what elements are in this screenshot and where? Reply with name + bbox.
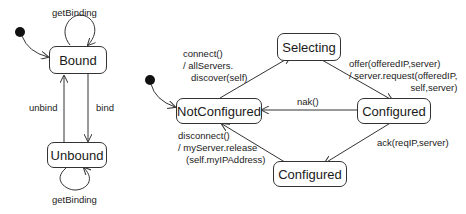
state-selecting: Selecting — [277, 33, 341, 61]
state-configured-mid: Configured — [357, 98, 431, 124]
unbound-self-loop — [60, 168, 89, 190]
state-label: NotConfigured — [177, 104, 261, 119]
initial-transition-right — [151, 84, 175, 107]
transition-label-bound-self: getBinding — [52, 7, 97, 19]
state-label: Unbound — [51, 148, 104, 163]
transition-label-offer: offer(offeredIP,server) / server.request… — [349, 58, 457, 94]
state-label: Configured — [362, 104, 426, 119]
transition-label-ack: ack(reqIP,server) — [377, 137, 449, 149]
state-label: Bound — [59, 53, 97, 68]
transition-label-unbound-self: getBinding — [52, 194, 97, 206]
bound-self-loop — [65, 15, 95, 45]
initial-state-left — [15, 27, 25, 37]
state-unbound: Unbound — [47, 142, 107, 168]
state-label: Selecting — [282, 40, 335, 55]
transition-label-disconnect: disconnect() / myServer.release (self.my… — [178, 130, 266, 166]
state-bound: Bound — [49, 46, 107, 74]
initial-state-right — [145, 75, 155, 85]
initial-transition-left — [22, 36, 48, 57]
state-label: Configured — [278, 167, 342, 182]
transition-label-connect: connect() / allServers. discover(self) — [183, 48, 248, 84]
transition-label-nak: nak() — [297, 96, 319, 108]
transition-label-unbind: unbind — [29, 102, 58, 114]
state-not-configured: NotConfigured — [176, 98, 262, 124]
state-configured-bottom: Configured — [273, 161, 347, 187]
transition-label-bind: bind — [96, 102, 114, 114]
